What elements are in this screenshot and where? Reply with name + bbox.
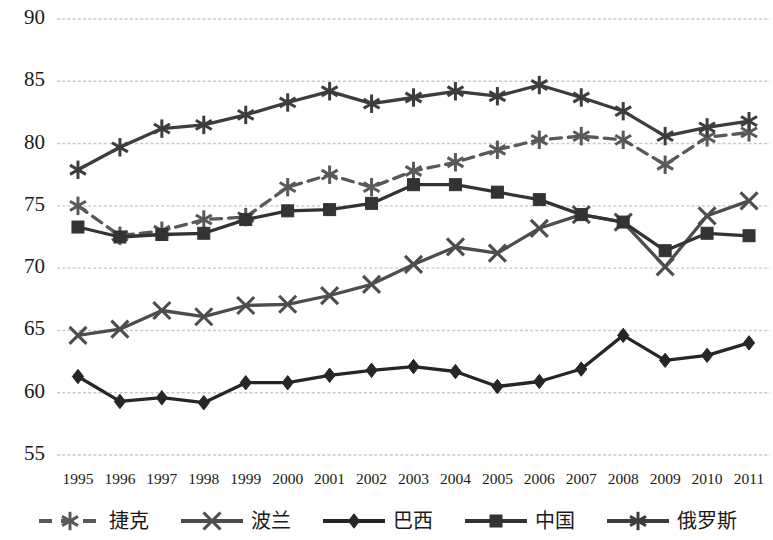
legend-marker-diamond-icon [321,510,387,532]
marker-diamond [114,394,125,408]
legend-label: 中国 [535,511,575,531]
x-tick-label: 2004 [433,470,477,488]
marker-diamond [324,368,335,382]
marker-diamond [701,348,712,362]
legend-item[interactable]: 俄罗斯 [605,510,737,532]
marker-square [490,515,502,527]
legend-label: 巴西 [393,511,433,531]
x-tick-label: 2003 [392,470,436,488]
x-tick-label: 2007 [559,470,603,488]
x-tick-label: 2008 [601,470,645,488]
x-tick-label: 2002 [350,470,394,488]
x-tick-label: 1998 [182,470,226,488]
marker-square [533,194,545,206]
marker-diamond [408,359,419,373]
marker-square [491,186,503,198]
chart-legend: 捷克波兰巴西中国俄罗斯 [0,503,773,539]
marker-square [449,179,461,191]
y-tick-label: 65 [5,316,45,341]
legend-label: 捷克 [109,511,149,531]
x-tick-label: 1999 [224,470,268,488]
legend-item[interactable]: 波兰 [179,510,291,532]
x-tick-label: 2000 [266,470,310,488]
x-tick-label: 1997 [140,470,184,488]
marker-square [156,229,168,241]
series-3 [72,328,754,410]
legend-label: 波兰 [251,511,291,531]
marker-diamond [450,364,461,378]
marker-square [324,204,336,216]
marker-square [198,227,210,239]
legend-marker-asterisk-icon [37,510,103,532]
y-tick-label: 60 [5,379,45,404]
marker-square [743,230,755,242]
y-tick-label: 90 [5,5,45,30]
chart-plot-area [0,0,773,540]
x-tick-label: 2011 [727,470,771,488]
marker-diamond [743,336,754,350]
marker-square [575,209,587,221]
marker-diamond [660,353,671,367]
y-tick-label: 55 [5,441,45,466]
x-tick-label: 2005 [475,470,519,488]
x-tick-label: 2006 [517,470,561,488]
legend-item[interactable]: 捷克 [37,510,149,532]
marker-diamond [492,379,503,393]
marker-diamond [198,395,209,409]
marker-square [72,221,84,233]
x-tick-label: 2009 [643,470,687,488]
marker-square [366,197,378,209]
y-tick-label: 85 [5,67,45,92]
x-tick-label: 2010 [685,470,729,488]
legend-marker-square-icon [463,510,529,532]
x-tick-label: 1995 [56,470,100,488]
marker-diamond [72,369,83,383]
y-tick-label: 75 [5,192,45,217]
marker-square [240,214,252,226]
legend-marker-asterisk-icon [605,510,671,532]
marker-diamond [366,363,377,377]
legend-item[interactable]: 巴西 [321,510,433,532]
marker-square [701,227,713,239]
series-line [78,185,749,251]
x-tick-label: 1996 [98,470,142,488]
marker-square [408,179,420,191]
marker-diamond [534,374,545,388]
marker-diamond [240,376,251,390]
legend-marker-x-icon [179,510,245,532]
legend-item[interactable]: 中国 [463,510,575,532]
series-4 [72,179,755,257]
marker-square [282,205,294,217]
x-tick-label: 2001 [308,470,352,488]
y-tick-label: 80 [5,130,45,155]
marker-diamond [348,514,359,528]
line-chart: 9085807570656055 19951996199719981999200… [0,0,773,540]
marker-diamond [282,376,293,390]
y-tick-label: 70 [5,254,45,279]
marker-square [114,231,126,243]
marker-square [617,216,629,228]
marker-square [659,245,671,257]
legend-label: 俄罗斯 [677,511,737,531]
